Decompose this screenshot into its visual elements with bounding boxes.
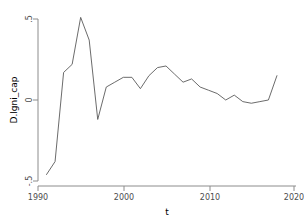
chart-container: .5 0 -.5 D.lgni_cap 1990 2000 2010 2020 …: [0, 0, 304, 223]
chart-background: [0, 0, 304, 223]
line-chart: .5 0 -.5 D.lgni_cap 1990 2000 2010 2020 …: [0, 0, 304, 223]
x-tick-label-1990: 1990: [28, 193, 48, 202]
y-tick-label-bottom: -.5: [25, 176, 34, 187]
x-tick-label-2000: 2000: [114, 193, 134, 202]
x-tick-label-2010: 2010: [200, 193, 220, 202]
y-tick-label-mid: 0: [25, 97, 34, 102]
y-axis-title: D.lgni_cap: [9, 76, 19, 123]
y-tick-label-top: .5: [25, 15, 34, 23]
x-tick-label-2020: 2020: [284, 193, 304, 202]
x-axis-title: t: [165, 207, 169, 217]
